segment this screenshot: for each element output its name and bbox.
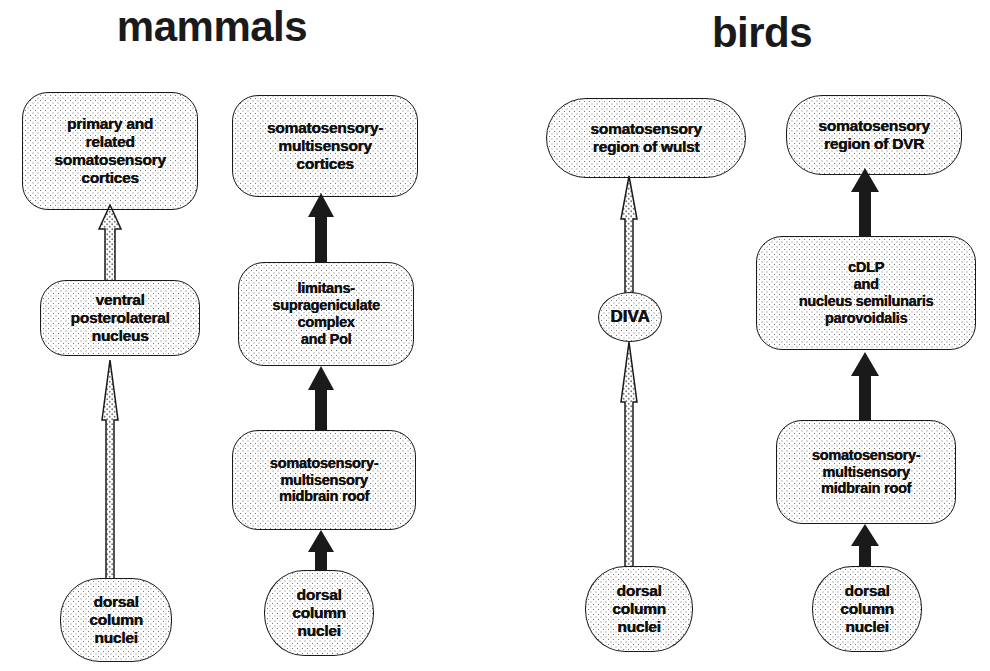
- node-somatosensory-multisensory-midbrain-roof-mammal[interactable]: somatosensory- multisensory midbrain roo…: [232, 430, 416, 530]
- node-ventral-posterolateral-nucleus[interactable]: ventral posterolateral nucleus: [40, 280, 200, 356]
- node-label: dorsal column nuclei: [606, 582, 672, 636]
- arrow-cdlp-to-dvr: [849, 168, 881, 242]
- node-label: dorsal column nuclei: [83, 593, 149, 647]
- node-label: somatosensory region of DVR: [812, 117, 935, 153]
- node-label: primary and related somatosensory cortic…: [48, 115, 171, 187]
- node-dorsal-column-nuclei-lemniscal-mammal[interactable]: dorsal column nuclei: [60, 578, 172, 662]
- arrow-diva-to-wulst: [615, 175, 643, 297]
- arrow-dcn-to-midbrain-bird: [849, 524, 881, 572]
- node-label: dorsal column nuclei: [834, 582, 900, 636]
- node-somatosensory-multisensory-midbrain-roof-bird[interactable]: somatosensory- multisensory midbrain roo…: [776, 420, 956, 524]
- node-somatosensory-region-of-wulst[interactable]: somatosensory region of wulst: [546, 98, 746, 178]
- node-label: ventral posterolateral nucleus: [64, 291, 175, 345]
- node-primary-somatosensory-cortices[interactable]: primary and related somatosensory cortic…: [22, 92, 198, 210]
- arrow-dcn-to-vpl: [96, 358, 124, 584]
- node-dorsal-column-nuclei-collicular-bird[interactable]: dorsal column nuclei: [812, 566, 922, 652]
- group-title-birds: birds: [712, 12, 812, 54]
- node-dorsal-column-nuclei-collicular-mammal[interactable]: dorsal column nuclei: [264, 570, 374, 656]
- node-label: somatosensory region of wulst: [584, 120, 707, 156]
- node-diva[interactable]: DIVA: [598, 292, 662, 342]
- node-label: cDLP and nucleus semilunaris parovoidali…: [793, 259, 940, 326]
- node-limitans-suprageniculate-complex[interactable]: limitans- suprageniculate complex and Po…: [238, 262, 414, 366]
- node-label: dorsal column nuclei: [286, 586, 352, 640]
- arrow-midbrain-to-cdlp: [849, 352, 881, 422]
- node-label: somatosensory- multisensory cortices: [261, 119, 389, 173]
- arrow-dcn-to-diva: [615, 340, 643, 578]
- node-dorsal-column-nuclei-lemniscal-bird[interactable]: dorsal column nuclei: [585, 566, 693, 652]
- node-somatosensory-region-of-dvr[interactable]: somatosensory region of DVR: [786, 95, 962, 175]
- group-title-mammals: mammals: [117, 6, 307, 48]
- arrow-limitans-to-cortices: [306, 193, 336, 267]
- arrow-vpl-to-cortices: [96, 203, 124, 287]
- node-label: DIVA: [604, 307, 655, 327]
- arrow-midbrain-to-limitans: [306, 366, 336, 434]
- node-label: somatosensory- multisensory midbrain roo…: [806, 447, 927, 497]
- node-label: somatosensory- multisensory midbrain roo…: [264, 455, 385, 505]
- node-somatosensory-multisensory-cortices[interactable]: somatosensory- multisensory cortices: [232, 95, 418, 197]
- node-cdlp-and-nucleus-semilunaris[interactable]: cDLP and nucleus semilunaris parovoidali…: [756, 236, 976, 350]
- diagram-canvas: mammals birds primary and related somato…: [0, 0, 990, 671]
- node-label: limitans- suprageniculate complex and Po…: [266, 280, 385, 347]
